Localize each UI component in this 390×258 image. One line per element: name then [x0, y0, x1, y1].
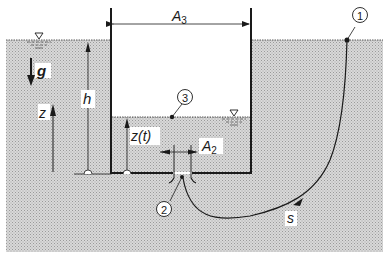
point-1: 1: [345, 8, 368, 43]
svg-text:3: 3: [182, 92, 188, 104]
point-3: 3: [170, 90, 193, 120]
label-zt: z(t): [130, 128, 151, 144]
label-g: g: [36, 62, 46, 79]
outer-water-left: [6, 40, 111, 252]
label-a3: A3: [171, 8, 187, 26]
svg-text:2: 2: [161, 204, 167, 216]
svg-text:1: 1: [357, 10, 363, 22]
label-h: h: [83, 90, 91, 107]
label-s: s: [287, 210, 294, 226]
diagram: A3 g z h z(t) A2 s: [0, 0, 390, 258]
label-z: z: [38, 105, 46, 121]
